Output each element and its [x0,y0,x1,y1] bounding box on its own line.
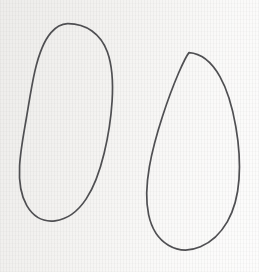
drawing-canvas [0,0,259,272]
left-oval-outline [19,24,112,221]
right-oval-outline [147,53,240,250]
oval-drawing [0,0,259,272]
